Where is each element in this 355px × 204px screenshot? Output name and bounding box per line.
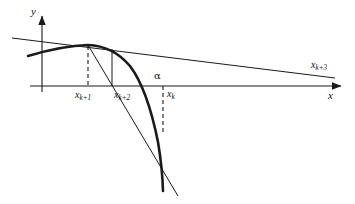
label-x-k-plus-2-sub: k+2 [118, 94, 130, 102]
label-x-k-plus-3-sub: k+3 [315, 64, 327, 72]
x-axis-label-text: x [328, 89, 333, 101]
secant-line [12, 38, 335, 78]
function-curve [28, 45, 163, 191]
y-axis-label: y [31, 6, 36, 17]
figure-root: y x xk+1 xk+2 xk xk+3 α [0, 0, 355, 204]
label-x-k: xk [167, 89, 175, 102]
label-angle-alpha-text: α [154, 70, 161, 81]
y-axis-label-text: y [31, 5, 36, 17]
label-x-k-plus-1-sub: k+1 [79, 94, 91, 102]
x-axis-label: x [328, 90, 333, 101]
diagram-canvas [0, 0, 355, 204]
label-x-k-plus-3: xk+3 [311, 60, 327, 73]
label-angle-alpha: α [154, 71, 161, 81]
label-x-k-plus-1: xk+1 [75, 90, 91, 103]
label-x-k-plus-2: xk+2 [114, 90, 130, 103]
tangent-line [88, 45, 178, 196]
label-x-k-sub: k [171, 93, 174, 101]
